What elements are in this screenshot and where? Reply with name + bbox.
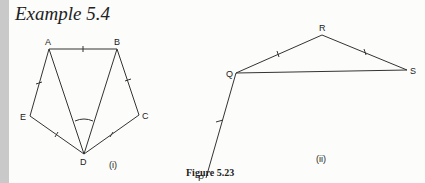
point-r-label: R — [319, 23, 326, 33]
figure-caption: Figure 5.23 — [186, 167, 234, 178]
point-b-label: B — [114, 37, 120, 47]
pentagon-figure-i — [30, 46, 139, 154]
point-d-label: D — [80, 157, 87, 167]
geometry-figures: A B C D E (i) R Q S P (ii) — [0, 0, 425, 183]
point-e-label: E — [20, 112, 26, 122]
point-a-label: A — [45, 37, 51, 47]
figure-ii — [206, 35, 407, 178]
point-c-label: C — [142, 111, 149, 121]
figure-i-label: (i) — [109, 160, 117, 170]
point-q-label: Q — [226, 69, 233, 79]
figure-ii-label: (ii) — [316, 154, 326, 164]
point-s-label: S — [410, 66, 416, 76]
